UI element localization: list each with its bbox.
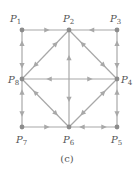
directed-graph-diagram: P1P2P3P4P5P6P7P8 (c) <box>0 0 134 169</box>
arrowhead-icon <box>101 124 106 129</box>
node-label-p7: P7 <box>15 134 27 147</box>
node-label-p8: P8 <box>7 74 19 87</box>
node-label-p2: P2 <box>62 13 74 26</box>
arrowhead-icon <box>114 41 119 46</box>
arrowhead-icon <box>19 41 24 46</box>
node-p1 <box>20 28 25 33</box>
arrowhead-icon <box>19 111 24 116</box>
edge-P8-P6 <box>22 79 69 127</box>
graph-edges <box>19 27 119 129</box>
arrowhead-icon <box>19 63 24 68</box>
node-label-p5: P5 <box>110 134 122 147</box>
arrowhead-icon <box>114 89 119 94</box>
arrowhead-icon <box>79 124 84 129</box>
node-p7 <box>20 125 25 130</box>
edge-P2-P4 <box>69 30 117 79</box>
arrowhead-icon <box>44 27 49 32</box>
node-p5 <box>115 125 120 130</box>
arrowhead-icon <box>114 111 119 116</box>
node-label-p3: P3 <box>109 13 121 26</box>
arrowhead-icon <box>66 97 71 102</box>
node-p6 <box>67 125 72 130</box>
arrowhead-icon <box>66 55 71 60</box>
node-label-p1: P1 <box>9 13 21 26</box>
arrowhead-icon <box>46 76 51 81</box>
node-label-p6: P6 <box>62 134 75 147</box>
arrowhead-icon <box>89 27 94 32</box>
node-label-p4: P4 <box>120 74 133 87</box>
figure-caption: (c) <box>60 153 74 164</box>
arrowhead-icon <box>87 76 92 81</box>
edge-P2-P8 <box>22 30 69 79</box>
arrowhead-icon <box>44 124 49 129</box>
edge-P6-P4 <box>69 79 117 127</box>
node-p4 <box>115 77 120 82</box>
arrowhead-icon <box>19 89 24 94</box>
node-p3 <box>115 28 120 33</box>
arrowhead-icon <box>114 63 119 68</box>
node-p2 <box>67 28 72 33</box>
node-p8 <box>20 77 25 82</box>
